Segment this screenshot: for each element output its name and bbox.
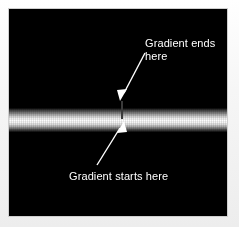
gradient-figure: Gradient ends here Gradient starts here xyxy=(0,0,239,227)
gradient-bar-dither-texture xyxy=(9,108,227,132)
illustration-canvas: Gradient ends here Gradient starts here xyxy=(9,9,227,216)
gradient-ends-leader-line xyxy=(124,53,145,93)
gradient-starts-label: Gradient starts here xyxy=(69,170,209,183)
gradient-ends-arrow-head xyxy=(117,89,127,101)
gradient-bar xyxy=(9,108,227,132)
gradient-ends-label: Gradient ends here xyxy=(145,37,227,63)
gradient-starts-leader-line xyxy=(97,128,120,165)
